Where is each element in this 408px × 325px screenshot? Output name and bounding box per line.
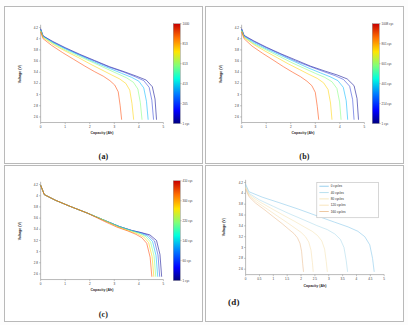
- svg-text:2: 2: [290, 125, 292, 129]
- colorbar-tick-label: 410 cyc: [183, 179, 194, 183]
- svg-text:3: 3: [36, 250, 38, 254]
- colorbar-tick-label: 601 cyc: [382, 62, 393, 66]
- legend-label: 160 cycles: [331, 210, 346, 214]
- colorbar-tick-label: 1 cyc: [382, 122, 389, 126]
- svg-text:3.4: 3.4: [34, 70, 39, 74]
- svg-text:4.2: 4.2: [235, 26, 240, 30]
- svg-text:3.6: 3.6: [34, 59, 39, 63]
- svg-text:4.5: 4.5: [368, 277, 373, 281]
- svg-text:3.2: 3.2: [34, 239, 39, 243]
- curve-1-cyc: [242, 29, 359, 120]
- panel-a-plot: 2.62.833.23.43.63.844.2 012345 Voltage (…: [5, 7, 202, 163]
- panel-a: 2.62.833.23.43.63.844.2 012345 Voltage (…: [4, 6, 203, 164]
- svg-text:3.4: 3.4: [235, 70, 240, 74]
- curve-300-cyc: [41, 185, 154, 277]
- panel-c-colorbar: 410 cyc300 cyc220 cyc140 cyc60 cyc1 cyc: [173, 179, 193, 283]
- svg-text:4: 4: [356, 277, 358, 281]
- svg-text:4: 4: [241, 191, 243, 195]
- panel-b-ylabel: Voltage (V): [219, 65, 223, 83]
- svg-text:5: 5: [163, 125, 165, 129]
- panel-c-plot: 2.62.833.23.43.63.844.2 012345 Voltage (…: [5, 166, 202, 321]
- panel-c-ylabel: Voltage (V): [18, 222, 22, 240]
- svg-text:1: 1: [64, 125, 66, 129]
- curve-1-cyc: [41, 185, 162, 277]
- svg-text:1.5: 1.5: [285, 277, 290, 281]
- svg-text:2: 2: [89, 282, 91, 286]
- colorbar-tick-label: 205: [183, 102, 188, 106]
- colorbar-tick-label: 60 cyc: [183, 259, 192, 263]
- svg-text:3.8: 3.8: [34, 205, 39, 209]
- svg-text:1: 1: [265, 125, 267, 129]
- curve-140-cyc: [41, 185, 158, 277]
- svg-text:1: 1: [64, 282, 66, 286]
- svg-text:3: 3: [237, 93, 239, 97]
- svg-text:3.4: 3.4: [239, 224, 244, 228]
- svg-text:3.8: 3.8: [235, 48, 240, 52]
- panel-b-colorbar: 1008 cyc801 cyc601 cyc401 cyc214 cyc1 cy…: [372, 22, 394, 126]
- svg-text:5: 5: [364, 125, 366, 129]
- svg-text:4: 4: [138, 125, 140, 129]
- svg-text:4: 4: [339, 125, 341, 129]
- curve-1000-cyc: [41, 32, 122, 120]
- svg-text:2.5: 2.5: [313, 277, 318, 281]
- svg-text:0: 0: [241, 125, 243, 129]
- panel-d-ylabel: Voltage (V): [222, 218, 226, 236]
- panel-a-axes: 2.62.833.23.43.63.844.2 012345: [34, 25, 165, 129]
- panel-d: 2.62.833.23.43.63.844.2 00.511.522.533.5…: [205, 165, 404, 322]
- svg-text:4.2: 4.2: [239, 181, 244, 185]
- panel-a-caption: (a): [5, 152, 202, 161]
- svg-text:3: 3: [328, 277, 330, 281]
- panel-b-xlabel: Capacity (Ah): [292, 131, 315, 135]
- colorbar-tick-label: 613: [183, 62, 188, 66]
- svg-text:2.8: 2.8: [235, 104, 240, 108]
- colorbar-tick-label: 401 cyc: [382, 82, 393, 86]
- svg-text:2.8: 2.8: [239, 256, 244, 260]
- panel-b: 2.62.833.23.43.63.844.2 012345 Voltage (…: [205, 6, 404, 164]
- svg-text:3.6: 3.6: [34, 216, 39, 220]
- svg-text:1: 1: [272, 277, 274, 281]
- curve-1008-cyc: [242, 32, 319, 120]
- curve-214-cyc: [242, 29, 354, 119]
- colorbar-tick-label: 300 cyc: [183, 199, 194, 203]
- panel-a-xlabel: Capacity (Ah): [91, 131, 114, 135]
- panel-a-curves: [41, 29, 157, 120]
- svg-text:2.6: 2.6: [34, 272, 39, 276]
- panel-a-colorbar: 10008136134132051 cyc: [173, 22, 190, 126]
- legend-label: 0 cycles: [331, 184, 343, 188]
- svg-text:4.2: 4.2: [34, 183, 39, 187]
- svg-text:2: 2: [89, 125, 91, 129]
- svg-text:0: 0: [245, 277, 247, 281]
- panel-c-curves: [41, 185, 162, 277]
- colorbar-tick-label: 1 cyc: [183, 122, 190, 126]
- svg-text:5: 5: [383, 277, 385, 281]
- panel-c-caption: (c): [5, 310, 202, 319]
- svg-text:3: 3: [241, 246, 243, 250]
- panel-b-plot: 2.62.833.23.43.63.844.2 012345 Voltage (…: [206, 7, 403, 163]
- panel-d-xlabel: Capacity (Ah): [303, 284, 326, 288]
- legend-label: 120 cycles: [331, 203, 346, 207]
- svg-text:5: 5: [163, 282, 165, 286]
- legend-label: 40 cycles: [331, 191, 345, 195]
- svg-text:3.2: 3.2: [239, 235, 244, 239]
- curve-410-cyc: [41, 185, 152, 277]
- colorbar-tick-label: 413: [183, 82, 188, 86]
- svg-text:3.2: 3.2: [235, 82, 240, 86]
- panel-d-legend: 0 cycles40 cycles80 cycles120 cycles160 …: [317, 183, 378, 218]
- colorbar-tick-label: 1 cyc: [183, 279, 190, 283]
- panel-b-curves: [242, 29, 359, 120]
- svg-text:0: 0: [40, 282, 42, 286]
- svg-text:3.8: 3.8: [34, 48, 39, 52]
- svg-text:3.6: 3.6: [239, 213, 244, 217]
- curve-120-cycles: [246, 188, 314, 272]
- svg-text:4.2: 4.2: [34, 26, 39, 30]
- svg-text:2.6: 2.6: [34, 115, 39, 119]
- panel-d-caption: (d): [206, 297, 408, 307]
- svg-text:3: 3: [113, 125, 115, 129]
- panel-c: 2.62.833.23.43.63.844.2 012345 Voltage (…: [4, 165, 203, 322]
- curve-1-cyc: [41, 29, 157, 120]
- svg-text:0.5: 0.5: [257, 277, 262, 281]
- colorbar-tick-label: 813: [183, 42, 188, 46]
- panel-a-ylabel: Voltage (V): [18, 65, 22, 83]
- panel-c-xlabel: Capacity (Ah): [91, 288, 114, 292]
- curve-60-cyc: [41, 185, 160, 277]
